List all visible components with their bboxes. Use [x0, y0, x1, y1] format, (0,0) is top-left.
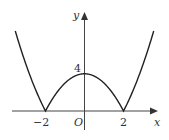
y-axis-arrow-icon	[81, 12, 88, 20]
x-axis-arrow-icon	[150, 108, 158, 115]
tick-label-neg2: −2	[33, 116, 49, 129]
function-graph: y x O −2 2 4	[0, 0, 169, 140]
tick-label-4: 4	[74, 62, 81, 75]
origin-label: O	[74, 116, 83, 129]
y-axis-label: y	[72, 9, 80, 22]
x-axis-label: x	[154, 116, 161, 129]
tick-label-2: 2	[120, 116, 127, 129]
